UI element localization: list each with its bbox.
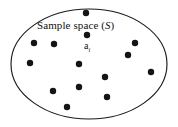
outcome-point-upper-left [31, 40, 37, 46]
sample-space-label-prefix: Sample space ( [37, 19, 105, 31]
sample-space-label-suffix: ) [111, 19, 115, 31]
outcome-point-center [76, 61, 82, 67]
sample-space-label: Sample space (S) [37, 20, 114, 31]
outcome-point-ai [84, 32, 90, 38]
outcome-point-lower-mid [76, 84, 82, 90]
outcome-point-label: ai [84, 41, 90, 54]
outcome-point-upper-mid [51, 41, 57, 47]
outcome-point-lower-left [50, 88, 56, 94]
outcome-point-mid-right [102, 74, 108, 80]
outcome-point-lower-right [104, 94, 110, 100]
outcome-point-right-inner [125, 52, 131, 58]
outcome-point-bottom-left [64, 104, 70, 110]
outcome-point-left [27, 60, 33, 66]
outcome-point-upper-right [132, 40, 138, 46]
outcome-point-label-subscript: i [88, 46, 90, 53]
outcome-point-top [83, 10, 89, 16]
outcome-point-far-right [148, 69, 154, 75]
sample-space-figure: Sample space (S) ai [0, 0, 178, 127]
